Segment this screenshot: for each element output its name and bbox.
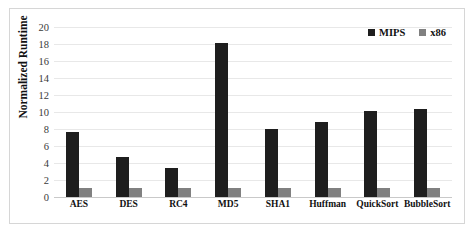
bar-groups: [54, 27, 452, 197]
bar-mips-des: [116, 157, 129, 197]
x-tick-label-md5: MD5: [218, 199, 239, 209]
y-tick-label: 10: [39, 107, 50, 118]
bar-group: [116, 27, 142, 197]
y-tick-label: 18: [39, 39, 50, 50]
bar-mips-md5: [215, 43, 228, 197]
square-marker: [419, 29, 426, 36]
bar-x86-huffman: [328, 188, 341, 197]
bar-group: [215, 27, 241, 197]
bar-x86-quicksort: [377, 188, 390, 197]
bar-mips-quicksort: [364, 111, 377, 197]
y-tick-label: 2: [44, 175, 49, 186]
gridline: [54, 197, 452, 198]
y-axis-title: Normalized Runtime: [17, 2, 29, 132]
bar-mips-aes: [66, 132, 79, 197]
bar-group: [364, 27, 390, 197]
bar-mips-bubblesort: [414, 109, 427, 197]
bar-mips-huffman: [315, 122, 328, 197]
y-tick-label: 16: [39, 56, 50, 67]
chart-container: Normalized Runtime 02468101214161820 AES…: [9, 8, 465, 224]
x-tick-label-bubblesort: BubbleSort: [404, 199, 450, 209]
plot-area: 02468101214161820: [54, 27, 452, 197]
x-tick-label-aes: AES: [70, 199, 88, 209]
bar-group: [414, 27, 440, 197]
y-tick-label: 0: [44, 192, 49, 203]
bar-group: [165, 27, 191, 197]
x-axis-ticks: AESDESRC4MD5SHA1HuffmanQuickSortBubbleSo…: [54, 199, 452, 217]
bar-group: [66, 27, 92, 197]
y-tick-label: 4: [44, 158, 49, 169]
bar-group: [265, 27, 291, 197]
bar-x86-rc4: [178, 188, 191, 197]
square-marker: [368, 29, 375, 36]
x-tick-label-des: DES: [119, 199, 137, 209]
y-tick-label: 6: [44, 141, 49, 152]
legend-item-x86[interactable]: x86: [419, 27, 446, 38]
y-tick-label: 20: [39, 22, 50, 33]
bar-x86-bubblesort: [427, 188, 440, 197]
bar-x86-des: [129, 188, 142, 197]
y-tick-label: 14: [39, 73, 50, 84]
bar-x86-sha1: [278, 188, 291, 197]
x-tick-label-sha1: SHA1: [266, 199, 290, 209]
bar-x86-md5: [228, 188, 241, 197]
x-tick-label-quicksort: QuickSort: [356, 199, 398, 209]
chart-legend: MIPSx86: [368, 27, 446, 38]
y-tick-label: 12: [39, 90, 50, 101]
bar-mips-sha1: [265, 129, 278, 197]
bar-group: [315, 27, 341, 197]
x-tick-label-rc4: RC4: [169, 199, 187, 209]
y-tick-label: 8: [44, 124, 49, 135]
legend-label: x86: [430, 27, 446, 38]
bar-mips-rc4: [165, 168, 178, 197]
legend-label: MIPS: [379, 27, 405, 38]
bar-x86-aes: [79, 188, 92, 197]
legend-item-mips[interactable]: MIPS: [368, 27, 405, 38]
x-tick-label-huffman: Huffman: [309, 199, 346, 209]
